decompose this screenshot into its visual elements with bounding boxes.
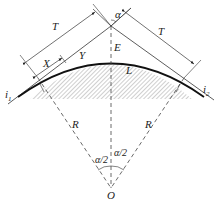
alpha-arc: [111, 20, 116, 22]
vertical-curve-diagram: α T T X Y E L i1 i2 R R α/2 α/2 O: [0, 0, 222, 205]
label-R-right: R: [144, 118, 152, 130]
label-grade-left: i1: [5, 88, 12, 103]
label-half-angle-right: α/2: [114, 147, 127, 158]
label-T-left: T: [52, 20, 59, 32]
label-X: X: [42, 57, 51, 69]
label-Y: Y: [79, 49, 87, 61]
label-grade-right: i2: [203, 83, 210, 98]
label-center-O: O: [107, 189, 115, 201]
tangent-extension-right: [93, 9, 111, 26]
half-angle-arc-right: [111, 166, 124, 170]
dim-extension-left-apex: [93, 4, 111, 26]
half-angle-arc-left: [98, 166, 111, 170]
label-E: E: [113, 41, 121, 53]
label-R-left: R: [71, 118, 79, 130]
dim-extension-right-apex: [111, 8, 131, 26]
label-T-right: T: [158, 25, 165, 37]
dim-extension-left-outer: [20, 55, 38, 78]
label-alpha: α: [115, 8, 121, 20]
label-half-angle-left: α/2: [95, 154, 108, 165]
diagram-svg: α T T X Y E L i1 i2 R R α/2 α/2 O: [0, 0, 222, 205]
label-L: L: [125, 64, 132, 76]
dim-T-right: [125, 12, 194, 64]
